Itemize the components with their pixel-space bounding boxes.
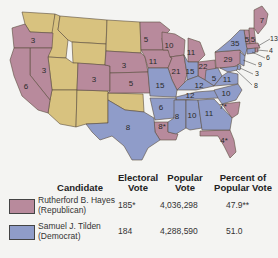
label-alabama: 10 <box>188 111 197 120</box>
label-pennsylvania: 29 <box>224 55 233 64</box>
state-florida <box>200 130 236 158</box>
label-minnesota: 5 <box>144 35 149 44</box>
label-delaware: 3 <box>255 70 259 77</box>
table-row-hayes: Rutherford B. Hayes (Republican) 185* 4,… <box>0 196 278 222</box>
popular-vote: 4,288,590 <box>160 226 198 236</box>
header-popular-line2: Vote <box>160 183 210 193</box>
label-michigan: 11 <box>187 48 196 57</box>
label-georgia: 11 <box>205 109 214 118</box>
label-california: 6 <box>24 82 29 91</box>
label-rhode-island: 4 <box>269 47 273 54</box>
label-indiana: 15 <box>186 67 195 76</box>
label-new-jersey: 9 <box>258 61 262 68</box>
label-oregon: 3 <box>31 36 36 45</box>
header-electoral-vote: Electoral Vote <box>110 173 166 193</box>
label-new-hampshire: 5 <box>251 35 256 44</box>
candidate-party: (Democrat) <box>38 232 101 242</box>
header-percent-line2: Popular Vote <box>210 183 276 193</box>
electoral-vote: 184 <box>118 226 132 236</box>
electoral-vote: 185* <box>118 200 136 210</box>
header-percent-popular-vote: Percent of Popular Vote <box>210 173 276 193</box>
table-row-tilden: Samuel J. Tilden (Democrat) 184 4,288,59… <box>0 222 278 248</box>
label-kentucky: 12 <box>195 81 204 90</box>
label-vermont: 5 <box>245 35 250 44</box>
legend-swatch-republican <box>9 199 35 214</box>
label-texas: 8 <box>126 123 131 132</box>
label-illinois: 21 <box>172 67 181 76</box>
header-electoral-line2: Vote <box>110 183 166 193</box>
candidate-tilden: Samuel J. Tilden (Democrat) <box>38 222 101 241</box>
state-nebraska <box>105 51 148 73</box>
label-maine: 7 <box>260 16 265 25</box>
header-popular-vote: Popular Vote <box>160 173 210 193</box>
popular-vote: 4,036,298 <box>160 200 198 210</box>
label-west-virginia: 5 <box>212 74 217 83</box>
header-candidate: Candidate <box>40 183 120 193</box>
legend-swatch-democrat <box>9 225 35 240</box>
new-mexico-territory <box>76 90 108 127</box>
label-iowa: 11 <box>149 57 158 66</box>
label-missouri: 15 <box>156 81 165 90</box>
dakota-territory <box>106 20 141 53</box>
label-arkansas: 6 <box>159 103 164 112</box>
label-virginia: 11 <box>223 75 232 84</box>
label-north-carolina: 10 <box>222 89 231 98</box>
label-ohio: 22 <box>199 62 208 71</box>
label-nevada: 3 <box>42 66 47 75</box>
label-new-york: 35 <box>231 39 240 48</box>
wyoming-territory <box>72 42 106 65</box>
label-massachusetts: 13 <box>270 35 278 42</box>
candidate-party: (Republican) <box>38 206 115 216</box>
label-louisiana: 8* <box>158 122 166 131</box>
label-nebraska: 3 <box>122 61 127 70</box>
percent-vote: 47.9** <box>226 200 249 210</box>
label-colorado: 3 <box>92 75 97 84</box>
label-connecticut: 6 <box>266 54 270 61</box>
percent-vote: 51.0 <box>226 226 243 236</box>
arizona-territory <box>48 90 77 127</box>
label-kansas: 5 <box>129 79 134 88</box>
label-mississippi: 8 <box>175 112 180 121</box>
label-south-carolina: 7* <box>219 102 227 111</box>
candidate-hayes: Rutherford B. Hayes (Republican) <box>38 196 115 215</box>
label-wisconsin: 10 <box>165 41 174 50</box>
label-maryland: 8 <box>254 82 258 89</box>
label-tennessee: 12 <box>186 91 195 100</box>
election-map: 3 3 6 3 3 5 5 11 10 11 21 15 22 29 35 5 … <box>0 0 278 170</box>
label-florida: 4* <box>220 136 228 145</box>
